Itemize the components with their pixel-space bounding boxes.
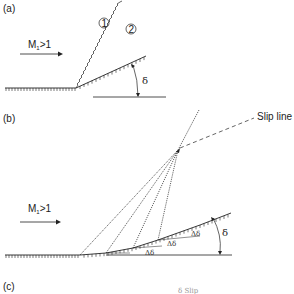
panel-a-label: (a) xyxy=(3,3,15,14)
oblique-shock xyxy=(76,1,122,88)
panel-c-label: (c) xyxy=(3,281,15,292)
compression-hatch xyxy=(84,215,228,258)
delta-increment-3: Δδ xyxy=(191,230,200,238)
panel-c-partial-text: δ Slip xyxy=(178,287,199,294)
panel-a: (a) M1>1 1 2 δ xyxy=(3,1,166,97)
angle-arc xyxy=(133,65,138,96)
wedge-surface xyxy=(76,56,146,88)
coalescence-point xyxy=(176,148,180,153)
flow-arrow-icon xyxy=(20,220,61,225)
panel-b: (b) M1>1 Δδ Δδ Δδ xyxy=(3,110,292,258)
angle-arc xyxy=(213,218,220,252)
svg-text:1: 1 xyxy=(102,18,108,29)
angle-delta-label: δ xyxy=(142,75,148,86)
panel-b-label: (b) xyxy=(3,113,15,124)
angle-delta-label: δ xyxy=(222,227,228,238)
region-1-marker: 1 xyxy=(99,18,109,29)
panel-a-mach-label: M1>1 xyxy=(28,39,52,51)
panel-b-mach-label: M1>1 xyxy=(28,203,52,215)
delta-increment-2: Δδ xyxy=(167,240,176,248)
svg-text:2: 2 xyxy=(129,24,135,35)
compression-waves xyxy=(80,110,199,255)
region-2-marker: 2 xyxy=(126,24,136,35)
panel-c: (c) δ Slip xyxy=(3,281,199,294)
delta-increment-1: Δδ xyxy=(145,249,154,257)
slip-line xyxy=(180,118,254,148)
diagram-canvas: (a) M1>1 1 2 δ xyxy=(0,0,294,294)
slip-line-label: Slip line xyxy=(257,111,292,122)
compression-surface xyxy=(80,213,231,255)
flow-arrow-icon xyxy=(20,52,63,57)
